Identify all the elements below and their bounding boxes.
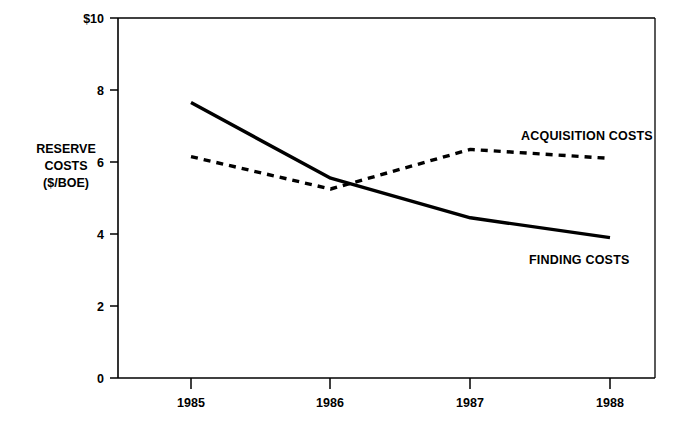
y-tick-label-4: 4 [97,228,104,242]
y-axis-title-line-2: COSTS [44,159,87,173]
y-tick-label-0: 0 [97,372,104,386]
reserve-costs-line-chart: $10 8 6 4 2 0 RESERVE COSTS ($/BOE) 1985… [0,0,698,427]
x-tick-label-1986: 1986 [316,396,344,410]
x-tick-label-1988: 1988 [596,396,624,410]
series-line-finding-costs [191,103,610,238]
series-annotation-finding-costs: FINDING COSTS [529,253,630,267]
x-tick-label-1987: 1987 [456,396,484,410]
y-tick-label-8: 8 [97,84,104,98]
y-tick-label-2: 2 [97,300,104,314]
y-tick-label-10: $10 [83,12,104,26]
y-tick-label-6: 6 [97,156,104,170]
x-tick-label-1985: 1985 [177,396,205,410]
y-axis-title-line-3: ($/BOE) [43,176,89,190]
y-axis-title-line-1: RESERVE [36,142,96,156]
chart-page: $10 8 6 4 2 0 RESERVE COSTS ($/BOE) 1985… [0,0,698,427]
series-annotation-acquisition-costs: ACQUISITION COSTS [521,129,653,143]
series-line-acquisition-costs [191,149,610,189]
